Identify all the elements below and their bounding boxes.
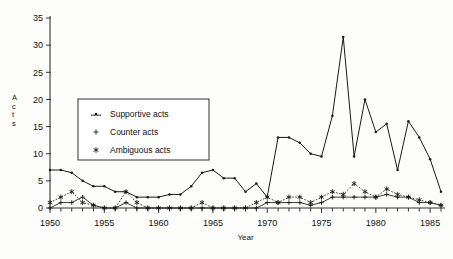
data-point-marker — [70, 171, 73, 174]
data-point-marker — [157, 196, 160, 199]
x-tick-label: 1975 — [312, 218, 332, 228]
y-axis-title: Acts — [12, 93, 17, 128]
y-axis-title-char: s — [12, 119, 16, 128]
data-point-marker — [331, 114, 334, 117]
dot-marker — [342, 36, 345, 39]
data-point-marker — [69, 200, 74, 205]
data-point-marker — [135, 206, 140, 211]
dot-marker — [353, 155, 356, 158]
legend-label: Counter acts — [110, 127, 158, 137]
y-tick-label: 0 — [38, 203, 43, 213]
y-tick-label: 15 — [33, 122, 43, 132]
data-point-marker — [385, 123, 388, 126]
x-tick-label: 1980 — [366, 218, 386, 228]
data-point-marker — [319, 200, 324, 205]
dot-marker — [375, 131, 378, 134]
dot-marker — [157, 196, 160, 199]
y-axis: 05101520253035 — [33, 13, 51, 213]
data-point-marker — [254, 200, 258, 205]
data-point-marker — [364, 98, 367, 101]
data-point-marker — [244, 190, 247, 193]
data-point-marker — [233, 177, 236, 180]
data-point-marker — [308, 200, 312, 205]
data-point-marker — [288, 136, 291, 139]
y-tick-label: 30 — [33, 40, 43, 50]
x-axis: 19501955196019651970197519801985 — [40, 208, 445, 228]
series-ambiguous-acts — [48, 181, 443, 211]
dot-marker — [81, 180, 84, 183]
data-point-marker — [179, 193, 182, 196]
chart-legend: Supportive actsCounter actsAmbiguous act… — [78, 99, 209, 160]
x-tick-label: 1970 — [257, 218, 277, 228]
data-point-marker — [49, 169, 52, 172]
data-point-marker — [255, 182, 258, 185]
data-point-marker — [287, 195, 291, 200]
dot-marker — [255, 182, 258, 185]
dot-marker — [407, 120, 410, 123]
dot-marker — [179, 193, 182, 196]
data-point-marker — [147, 196, 150, 199]
dot-marker — [190, 185, 193, 188]
dot-marker — [212, 169, 215, 172]
data-point-marker — [330, 195, 335, 200]
data-point-marker — [201, 171, 204, 174]
dot-marker — [364, 98, 367, 101]
x-tick-label: 1965 — [203, 218, 223, 228]
dot-marker — [244, 190, 247, 193]
x-tick-label: 1950 — [40, 218, 60, 228]
dot-marker — [49, 169, 52, 172]
data-point-marker — [440, 190, 443, 193]
x-tick-labels: 19501955196019651970197519801985 — [40, 218, 440, 228]
dot-marker — [320, 155, 323, 158]
data-point-marker — [342, 36, 345, 39]
data-point-marker — [384, 192, 389, 197]
y-tick-label: 5 — [38, 176, 43, 186]
data-point-marker — [135, 200, 139, 205]
data-point-marker — [136, 196, 139, 199]
dot-marker — [309, 152, 312, 155]
dot-marker — [168, 193, 171, 196]
data-point-marker — [287, 200, 292, 205]
data-point-marker — [353, 155, 356, 158]
data-point-marker — [320, 155, 323, 158]
data-point-marker — [363, 195, 368, 200]
data-point-marker — [396, 169, 399, 172]
data-point-marker — [59, 200, 64, 205]
dot-marker — [201, 171, 204, 174]
data-point-marker — [81, 180, 84, 183]
x-tick-label: 1960 — [149, 218, 169, 228]
data-point-marker — [254, 206, 259, 211]
dot-marker — [288, 136, 291, 139]
data-point-marker — [200, 206, 205, 211]
data-point-marker — [352, 195, 357, 200]
x-tick-label: 1955 — [94, 218, 114, 228]
data-point-marker — [80, 200, 84, 205]
dot-marker — [114, 190, 117, 193]
line-chart: 05101520253035 1950195519601965197019751… — [0, 0, 453, 259]
data-point-marker — [299, 142, 302, 145]
data-point-marker — [124, 200, 129, 205]
y-tick-label: 35 — [33, 13, 43, 23]
data-point-marker — [395, 192, 399, 197]
data-point-marker — [95, 113, 98, 116]
data-point-marker — [114, 190, 117, 193]
data-point-marker — [212, 169, 215, 172]
dot-marker — [233, 177, 236, 180]
data-point-marker — [363, 189, 367, 194]
data-point-marker — [429, 158, 432, 161]
data-point-marker — [319, 195, 323, 200]
data-point-marker — [223, 177, 226, 180]
dot-marker — [418, 136, 421, 139]
data-point-marker — [92, 185, 95, 188]
dot-marker — [147, 196, 150, 199]
dot-marker — [136, 196, 139, 199]
dot-marker — [92, 185, 95, 188]
x-axis-title: Year — [237, 233, 254, 242]
y-tick-label: 10 — [33, 149, 43, 159]
data-point-marker — [298, 200, 303, 205]
data-point-marker — [168, 193, 171, 196]
y-tick-label: 25 — [33, 68, 43, 78]
dot-marker — [396, 169, 399, 172]
y-tick-labels: 05101520253035 — [33, 13, 43, 213]
dot-marker — [440, 190, 443, 193]
